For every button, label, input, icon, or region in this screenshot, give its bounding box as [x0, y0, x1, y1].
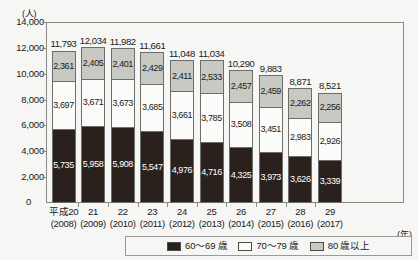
bar-segment-60-69[interactable]: 3,339 — [318, 160, 342, 203]
y-axis-tick-label: 2,000 — [0, 172, 44, 182]
bar-segment-value: 2,262 — [290, 99, 311, 108]
bar-segment-value: 3,661 — [172, 111, 193, 120]
bar-segment-80-plus[interactable]: 2,401 — [111, 48, 135, 79]
bar-segment-60-69[interactable]: 5,547 — [140, 131, 164, 203]
y-axis-tick-label: 6,000 — [0, 120, 44, 130]
y-axis-tick-label: 4,000 — [0, 146, 44, 156]
bar-segment-60-69[interactable]: 3,626 — [288, 156, 312, 203]
bar-segment-value: 2,411 — [172, 72, 192, 81]
bar-segment-value: 2,429 — [142, 64, 163, 73]
bar-segment-70-79[interactable]: 3,661 — [170, 91, 194, 138]
legend-swatch-icon — [238, 242, 252, 251]
bar-segment-value: 5,735 — [53, 161, 74, 170]
legend-item-label: 80 歳以上 — [328, 241, 370, 251]
bar-segment-80-plus[interactable]: 2,457 — [229, 70, 253, 102]
bar-total-label: 8,521 — [319, 81, 341, 91]
bar-segment-value: 3,626 — [290, 175, 311, 184]
y-axis-tick-label: 10,000 — [0, 69, 44, 79]
bar-segment-80-plus[interactable]: 2,411 — [170, 60, 194, 91]
bar-segment-value: 2,983 — [290, 133, 311, 142]
bar-segment-80-plus[interactable]: 2,429 — [140, 52, 164, 83]
bar-segment-70-79[interactable]: 3,685 — [140, 84, 164, 132]
bar-total-label: 11,982 — [110, 37, 136, 47]
bar-segment-70-79[interactable]: 3,671 — [81, 79, 105, 126]
bar-total-label: 11,661 — [139, 41, 165, 51]
bar-stack[interactable]: 11,0482,4113,6614,976 — [170, 60, 194, 203]
bar-segment-60-69[interactable]: 5,908 — [111, 127, 135, 203]
bar-segment-80-plus[interactable]: 2,262 — [288, 88, 312, 117]
bar-segment-70-79[interactable]: 3,673 — [111, 79, 135, 126]
bar-segment-60-69[interactable]: 3,973 — [259, 152, 283, 203]
chart-legend: 60〜69 歳70〜79 歳80 歳以上 — [125, 236, 412, 256]
bar-stack[interactable]: 11,0342,5333,7854,716 — [200, 60, 224, 203]
chart-title-faint — [22, 0, 362, 7]
legend-item-age-80-plus[interactable]: 80 歳以上 — [310, 241, 370, 251]
legend-item-age-70-79[interactable]: 70〜79 歳 — [238, 241, 298, 251]
bar-stack[interactable]: 11,6612,4293,6855,547 — [140, 52, 164, 203]
bar-segment-value: 2,401 — [112, 60, 133, 69]
bar-segment-80-plus[interactable]: 2,459 — [259, 75, 283, 107]
bar-stack[interactable]: 8,5212,2562,9263,339 — [318, 93, 342, 203]
y-axis-tick-label: 14,000 — [0, 17, 44, 27]
bar-segment-value: 3,508 — [231, 120, 252, 129]
bar-stack[interactable]: 12,0342,4053,6715,958 — [81, 47, 105, 203]
legend-swatch-icon — [167, 242, 181, 251]
bar-segment-70-79[interactable]: 3,451 — [259, 107, 283, 152]
bar-segment-70-79[interactable]: 3,508 — [229, 102, 253, 147]
y-axis-zero-label: 0 — [26, 197, 31, 207]
bar-total-label: 12,034 — [80, 36, 107, 46]
y-axis-tick-label: 12,000 — [0, 43, 44, 53]
bar-segment-70-79[interactable]: 2,926 — [318, 122, 342, 160]
bar-segment-60-69[interactable]: 5,735 — [52, 129, 76, 203]
bar-total-label: 11,048 — [169, 49, 195, 59]
bar-segment-80-plus[interactable]: 2,361 — [52, 51, 76, 82]
bar-segment-70-79[interactable]: 2,983 — [288, 118, 312, 157]
legend-swatch-icon — [310, 242, 324, 251]
bar-segment-value: 4,716 — [201, 168, 222, 177]
bar-stack[interactable]: 11,9822,4013,6735,908 — [111, 48, 135, 203]
bar-segment-60-69[interactable]: 4,976 — [170, 139, 194, 203]
bar-segment-value: 5,908 — [112, 160, 133, 169]
bar-segment-value: 2,459 — [260, 87, 281, 96]
bar-segment-value: 2,361 — [53, 62, 74, 71]
bar-segment-value: 3,697 — [53, 101, 74, 110]
bar-segment-value: 3,339 — [320, 177, 341, 186]
legend-item-age-60-69[interactable]: 60〜69 歳 — [167, 241, 227, 251]
x-axis-year-label: (2017) — [308, 219, 352, 229]
bar-segment-value: 3,673 — [112, 99, 133, 108]
bar-segment-80-plus[interactable]: 2,256 — [318, 93, 342, 122]
bar-segment-value: 3,973 — [260, 173, 281, 182]
bar-segment-60-69[interactable]: 5,958 — [81, 126, 105, 203]
bar-segment-value: 2,405 — [83, 59, 104, 68]
y-axis-tick-label: 8,000 — [0, 95, 44, 105]
bar-segment-70-79[interactable]: 3,697 — [52, 81, 76, 129]
bar-total-label: 9,883 — [260, 64, 282, 74]
x-axis-era-label: 29 — [308, 207, 352, 217]
bar-segment-value: 5,958 — [83, 160, 104, 169]
legend-item-label: 70〜79 歳 — [256, 241, 298, 251]
bar-segment-value: 5,547 — [142, 163, 163, 172]
bar-segment-60-69[interactable]: 4,716 — [200, 142, 224, 203]
bar-total-label: 11,034 — [199, 49, 225, 59]
legend-item-label: 60〜69 歳 — [185, 241, 227, 251]
bar-segment-value: 4,325 — [231, 171, 252, 180]
bar-segment-80-plus[interactable]: 2,405 — [81, 47, 105, 78]
bar-segment-value: 2,926 — [320, 137, 341, 146]
bar-segment-value: 4,976 — [172, 166, 193, 175]
bar-stack[interactable]: 10,2902,4573,5084,325 — [229, 70, 253, 203]
bar-total-label: 11,793 — [51, 39, 77, 49]
bar-stack[interactable]: 8,8712,2622,9833,626 — [288, 88, 312, 203]
bar-stack[interactable]: 11,7932,3613,6975,735 — [52, 51, 76, 203]
bar-total-label: 10,290 — [228, 59, 255, 69]
bar-segment-value: 2,457 — [231, 82, 252, 91]
bar-segment-value: 3,451 — [260, 125, 281, 134]
bar-segment-value: 2,533 — [201, 73, 222, 82]
bar-total-label: 8,871 — [289, 77, 311, 87]
bar-stack[interactable]: 9,8832,4593,4513,973 — [259, 75, 283, 203]
bar-segment-value: 3,785 — [201, 114, 222, 123]
bar-segment-60-69[interactable]: 4,325 — [229, 147, 253, 203]
stacked-bar-chart: (人) 2,0004,0006,0008,00010,00012,00014,0… — [0, 0, 418, 260]
bar-segment-70-79[interactable]: 3,785 — [200, 93, 224, 142]
bar-segment-80-plus[interactable]: 2,533 — [200, 60, 224, 93]
bar-segment-value: 2,256 — [320, 103, 341, 112]
